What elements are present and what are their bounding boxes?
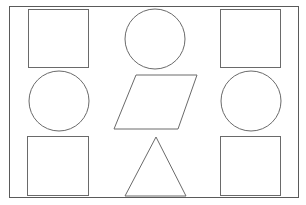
triangle-r3c2: [125, 137, 186, 196]
circle-r2c1: [29, 71, 89, 131]
square-r1c1: [29, 10, 89, 68]
circle-r1c2: [125, 9, 185, 69]
parallelogram-r2c2: [114, 75, 197, 129]
shape-grid-figure: [0, 0, 306, 205]
circle-r2c3: [221, 71, 281, 131]
square-r3c3: [221, 137, 281, 196]
figure-frame: [10, 7, 299, 198]
square-r3c1: [28, 137, 89, 196]
square-r1c3: [221, 10, 281, 68]
